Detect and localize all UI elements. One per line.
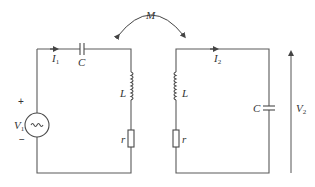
primary-capacitor (80, 43, 84, 55)
i1-label: I1 (52, 53, 59, 66)
v1-label: V1 (14, 120, 24, 133)
primary-top-wire-right (84, 49, 131, 72)
i2-label: I2 (214, 53, 221, 66)
primary-inductor-icon (131, 72, 133, 100)
circuit-diagram (0, 0, 315, 187)
v2-label: V2 (296, 103, 306, 116)
primary-bottom-wire (37, 137, 131, 173)
primary-inductor-label: L (120, 88, 126, 99)
secondary-inductor-icon (174, 72, 176, 100)
mutual-inductance-label: M (146, 10, 155, 21)
primary-resistor-label: r (121, 134, 125, 145)
secondary-top-wire (176, 49, 269, 106)
secondary-resistor-label: r (182, 134, 186, 145)
source-minus-sign: − (19, 135, 25, 145)
source-plus-sign: + (18, 97, 24, 107)
ac-source-icon (25, 113, 49, 137)
secondary-capacitor (263, 106, 275, 110)
primary-resistor-icon (128, 130, 134, 147)
secondary-bottom-wire (176, 110, 269, 173)
secondary-capacitor-label: C (253, 103, 260, 114)
secondary-resistor-icon (173, 130, 179, 147)
secondary-inductor-label: L (182, 88, 188, 99)
primary-capacitor-label: C (78, 57, 85, 68)
